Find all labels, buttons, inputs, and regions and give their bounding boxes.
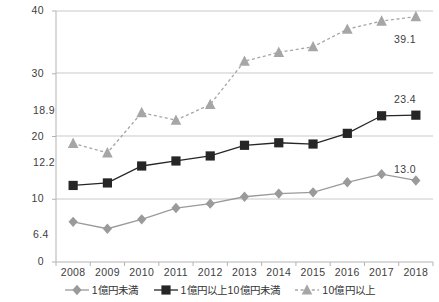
- series-line: [73, 115, 416, 185]
- data-point-marker-0: [68, 138, 79, 148]
- data-point-marker-9: [377, 169, 386, 179]
- data-point-marker-7: [308, 187, 317, 197]
- data-point-marker-0: [69, 181, 78, 190]
- data-point-marker-2: [137, 214, 146, 224]
- data-point-marker-8: [343, 129, 352, 138]
- series-0: [69, 169, 421, 234]
- line-chart: 403020100 200820092010201120122013201420…: [0, 0, 439, 302]
- y-tick-label: 30: [14, 67, 44, 79]
- series-2: [68, 11, 421, 158]
- data-point-marker-1: [103, 178, 112, 187]
- data-point-marker-10: [411, 175, 420, 185]
- legend-item-2[interactable]: 10億円以上: [294, 282, 375, 297]
- data-point-marker-0: [69, 217, 78, 227]
- data-point-marker-10: [411, 11, 422, 21]
- data-point-marker-9: [376, 15, 387, 25]
- data-point-marker-5: [240, 141, 249, 150]
- data-point-marker-3: [171, 156, 180, 165]
- data-point-marker-4: [206, 198, 215, 208]
- data-point-marker-1: [103, 224, 112, 234]
- legend-marker-square-icon: [153, 283, 179, 296]
- legend-label: 10億円以上: [322, 282, 375, 297]
- data-point-marker-4: [205, 99, 216, 109]
- legend-label: 1億円未満: [92, 282, 139, 297]
- y-tick-label: 10: [14, 192, 44, 204]
- y-tick-label: 40: [14, 4, 44, 16]
- legend: 1億円未満1億円以上10億円未満10億円以上: [0, 282, 439, 297]
- data-label-start-mid: 12.2: [33, 156, 55, 168]
- y-tick-label: 20: [14, 130, 44, 142]
- data-label-start-low: 6.4: [33, 228, 49, 240]
- series-layer: [68, 11, 421, 234]
- data-point-marker-6: [273, 47, 284, 57]
- legend-label: 1億円以上10億円未満: [181, 282, 281, 297]
- data-point-marker-10: [411, 111, 420, 120]
- data-point-marker-8: [343, 177, 352, 187]
- legend-marker-triangle-icon: [294, 283, 320, 296]
- data-point-marker-8: [342, 23, 353, 33]
- data-label-end-low: 13.0: [394, 163, 416, 175]
- data-label-start-top: 18.9: [33, 104, 55, 116]
- plot-area: [0, 0, 439, 302]
- data-point-marker-5: [240, 192, 249, 202]
- data-point-marker-4: [206, 151, 215, 160]
- gridlines: [56, 11, 433, 199]
- series-line: [73, 17, 416, 153]
- legend-item-1[interactable]: 1億円以上10億円未満: [153, 282, 281, 297]
- data-point-marker-2: [137, 161, 146, 170]
- data-point-marker-7: [308, 41, 319, 51]
- data-label-end-top: 39.1: [394, 33, 416, 45]
- x-tick-label: 2018: [396, 266, 436, 278]
- legend-item-0[interactable]: 1億円未満: [64, 282, 139, 297]
- data-point-marker-6: [274, 138, 283, 147]
- data-point-marker-2: [136, 107, 147, 117]
- data-point-marker-3: [171, 203, 180, 213]
- y-tick-label: 0: [14, 255, 44, 267]
- data-point-marker-7: [308, 139, 317, 148]
- legend-marker-diamond-icon: [64, 283, 90, 296]
- data-label-end-mid: 23.4: [394, 93, 416, 105]
- data-point-marker-9: [377, 111, 386, 120]
- data-point-marker-6: [274, 188, 283, 198]
- data-point-marker-legend: [161, 285, 170, 294]
- data-point-marker-legend: [72, 285, 81, 295]
